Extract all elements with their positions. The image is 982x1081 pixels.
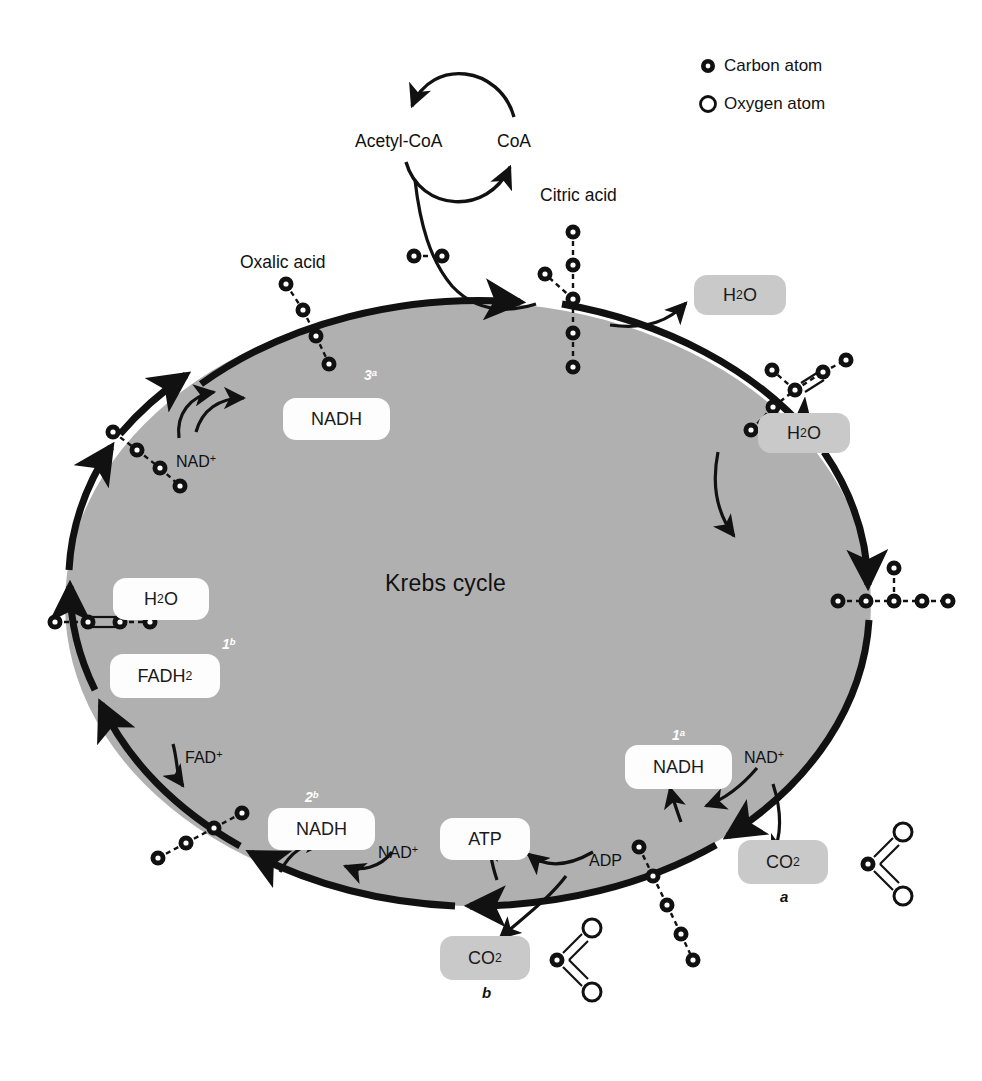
footnote-b: b [482, 984, 491, 1001]
label-coa: CoA [497, 131, 531, 152]
chip-fadh2-left: FADH2 [110, 654, 220, 698]
chip-h2o-left: H2O [113, 578, 209, 620]
nad-plus-upper-left: NAD+ [176, 452, 216, 471]
diagram-canvas [0, 0, 982, 1081]
footnote-a: a [780, 888, 788, 905]
molecule-carbon-dioxide-b [550, 919, 602, 1001]
label-citric-acid: Citric acid [540, 185, 617, 206]
step-marker-3a: 3a [364, 367, 377, 383]
oxygen-atom-icon [701, 97, 716, 112]
chip-nadh-lower-left: NADH [268, 808, 375, 850]
chip-co2-right: CO2 [738, 840, 828, 884]
adp-bottom: ADP [589, 852, 622, 870]
molecule-acetyl-group [407, 249, 450, 264]
legend-label-carbon: Carbon atom [724, 56, 822, 76]
nad-plus-lower-left: NAD+ [378, 843, 418, 862]
molecule-carbon-dioxide-a [861, 823, 913, 905]
label-acetyl-coa: Acetyl-CoA [355, 131, 443, 152]
nad-plus-right: NAD+ [744, 748, 784, 767]
chip-h2o-top-right: H2O [694, 275, 786, 315]
krebs-cycle-diagram: Carbon atom Oxygen atom Acetyl-CoA CoA C… [0, 0, 982, 1081]
chip-h2o-right: H2O [758, 413, 850, 453]
page-title: Krebs cycle [385, 570, 506, 597]
chip-co2-bottom: CO2 [440, 936, 530, 980]
carbon-atom-icon [701, 59, 715, 73]
legend-icons [701, 59, 716, 112]
step-marker-1a: 1a [672, 727, 685, 743]
chip-nadh-right: NADH [625, 745, 732, 789]
label-oxalic-acid: Oxalic acid [240, 252, 326, 273]
legend-label-oxygen: Oxygen atom [724, 94, 825, 114]
chip-atp: ATP [440, 818, 530, 860]
chip-nadh-upper-left: NADH [283, 398, 390, 440]
step-marker-1b: 1b [222, 636, 236, 652]
fad-plus-left: FAD+ [185, 748, 222, 767]
step-marker-2b: 2b [305, 789, 319, 805]
